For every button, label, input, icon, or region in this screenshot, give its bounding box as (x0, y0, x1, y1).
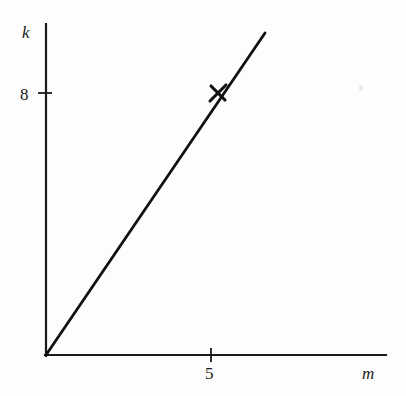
coordinate-plot: k m 8 5 (0, 0, 406, 396)
paper-speck (359, 86, 363, 90)
y-tick-label-8: 8 (20, 85, 29, 104)
graph-figure: k m 8 5 (0, 0, 406, 396)
x-axis-label: m (362, 364, 374, 383)
plotted-line (46, 33, 265, 355)
y-axis-label: k (22, 23, 30, 42)
x-tick-label-5: 5 (205, 364, 214, 383)
